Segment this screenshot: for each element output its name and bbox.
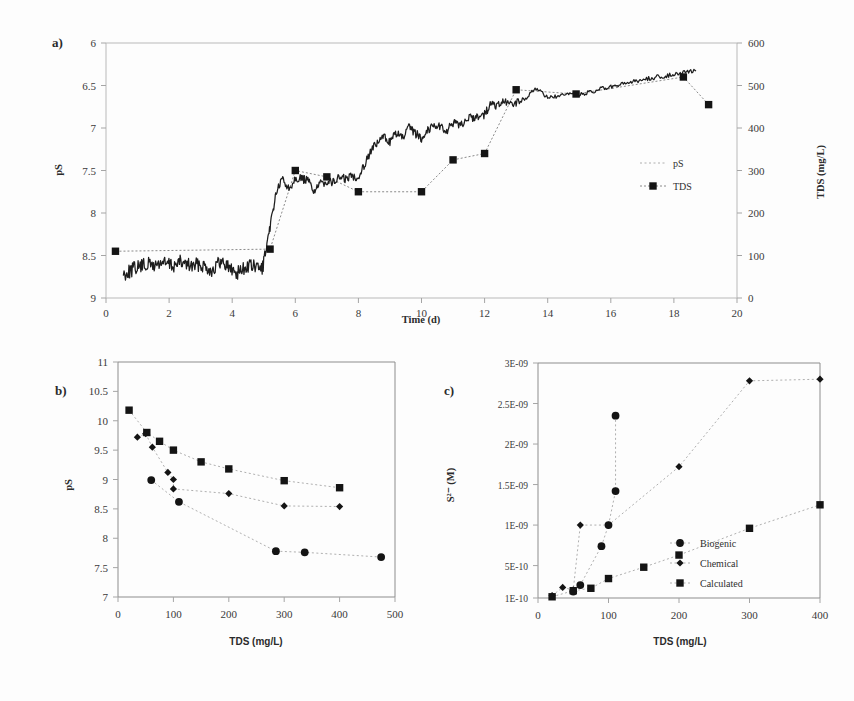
panel-a-left-ticklabel: 8 (91, 207, 97, 219)
panel-a-legend-tds-label: TDS (673, 181, 692, 192)
panel-a-x-ticklabel: 4 (229, 307, 235, 319)
panel-a-tds-marker (572, 90, 579, 97)
panel-a-x-ticklabel: 20 (732, 307, 744, 319)
panel-b-point-circle (377, 553, 385, 561)
panel-a-tds-marker (705, 101, 712, 108)
panel-c-x-ticklabel: 200 (671, 609, 688, 621)
panel-a-tds-marker (355, 188, 362, 195)
panel-a-right-ticklabel: 0 (748, 292, 754, 304)
panel-a-tds-marker (481, 150, 488, 157)
panel-c-point-square (587, 585, 594, 592)
panel-a-legend-tds-marker (649, 182, 656, 189)
panel-a-tds-line (115, 77, 708, 251)
panel-a-left-ticklabel: 6 (91, 37, 97, 49)
panel-a-right-ticklabel: 100 (748, 250, 765, 262)
panel-c-legend-marker-square (676, 579, 683, 586)
panel-a-tds-marker (449, 156, 456, 163)
panel-a-left-ticklabel: 9 (91, 292, 97, 304)
panel-a-tds-markers (112, 73, 713, 255)
panel-c-legend-marker-circle (676, 539, 684, 547)
panel-b-point-diamond (281, 502, 288, 509)
panel-b-point-square (197, 458, 204, 465)
panel-a-ps-trace (123, 69, 696, 280)
panel-c-point-circle (598, 542, 606, 550)
panel-c-x-ticklabel: 300 (741, 609, 758, 621)
panel-b-y-ticklabel: 10 (97, 415, 109, 427)
panel-a-tds-connector (115, 77, 708, 251)
panel-a-right-ticklabel: 400 (748, 122, 765, 134)
panel-b-point-diamond (170, 485, 177, 492)
panel-b-y-ticklabel: 10.5 (89, 385, 109, 397)
panel-c-chart: c) 1E-105E-101E-091.5E-092E-092.5E-093E-… (430, 345, 854, 701)
panel-a-x-ticklabel: 8 (356, 307, 362, 319)
panel-a-tds-marker (292, 167, 299, 174)
panel-b-x-ticks: 0100200300400500 (115, 597, 404, 620)
panel-b-point-diamond (164, 469, 171, 476)
panel-b-x-ticklabel: 500 (387, 608, 404, 620)
figure-page: a) 66.577.588.59 0100200300400500600 024… (0, 0, 854, 701)
panel-b-y-ticks: 77.588.599.51010.511 (89, 356, 118, 603)
panel-a-legend: pSTDS (640, 158, 692, 192)
panel-b-ylabel: pS (63, 479, 74, 491)
panel-a-left-ticks: 66.577.588.59 (82, 37, 106, 304)
panel-c-xlabel: TDS (mg/L) (653, 636, 706, 647)
panel-a-right-ticklabel: 500 (748, 80, 765, 92)
panel-b-point-square (125, 406, 132, 413)
panel-c-series-markers (548, 376, 823, 601)
panel-c-point-diamond (559, 584, 566, 591)
panel-a-tds-marker (323, 173, 330, 180)
panel-b-series-markers (125, 406, 385, 560)
panel-b-chart: b) 77.588.599.51010.511 0100200300400500… (0, 345, 440, 701)
panel-c-legend-label: Biogenic (700, 538, 737, 549)
panel-c-point-diamond (577, 521, 584, 528)
panel-c-ylabel: S²⁻ (M) (445, 467, 457, 502)
panel-b-x-ticklabel: 300 (276, 608, 293, 620)
panel-b-x-ticklabel: 200 (221, 608, 238, 620)
panel-a-y2label: TDS (mg/L) (815, 145, 827, 199)
panel-a-left-ticklabel: 7 (91, 122, 97, 134)
panel-b-letter: b) (55, 383, 67, 398)
panel-c-point-square (675, 551, 682, 558)
panel-a-x-ticklabel: 0 (103, 307, 109, 319)
panel-c-legend-marker-diamond (676, 559, 683, 566)
panel-a-right-ticklabel: 600 (748, 37, 765, 49)
panel-b-point-diamond (170, 476, 177, 483)
panel-b-point-square (156, 438, 163, 445)
panel-c-x-ticklabel: 100 (600, 609, 617, 621)
panel-a-ps-trace-line (123, 69, 696, 280)
panel-b-x-ticklabel: 0 (115, 608, 121, 620)
panel-b-point-diamond (134, 434, 141, 441)
panel-c-y-ticklabel: 1.5E-09 (498, 481, 529, 491)
panel-a-tds-marker (418, 188, 425, 195)
panel-c-x-ticks: 0100200300400 (535, 598, 829, 621)
panel-b-point-diamond (225, 490, 232, 497)
panel-c-point-square (816, 501, 823, 508)
panel-c-point-square (548, 593, 555, 600)
panel-c-point-diamond (816, 376, 823, 383)
panel-b-series-lines (129, 410, 381, 557)
panel-a-right-ticklabel: 300 (748, 165, 765, 177)
panel-c-y-ticklabel: 5E-10 (505, 562, 528, 572)
panel-c-series-connector (552, 379, 820, 595)
panel-a: a) 66.577.588.59 0100200300400500600 024… (0, 0, 854, 345)
panel-a-left-ticklabel: 6.5 (82, 80, 96, 92)
panel-c-series-connector (552, 505, 820, 597)
panel-c-point-circle (612, 487, 620, 495)
panel-a-right-ticks: 0100200300400500600 (737, 37, 765, 304)
panel-c-y-ticks: 1E-105E-101E-091.5E-092E-092.5E-093E-09 (498, 359, 538, 604)
panel-c-point-circle (576, 581, 584, 589)
panel-c-y-ticklabel: 1E-09 (505, 521, 528, 531)
panel-c-x-ticklabel: 400 (812, 609, 829, 621)
panel-a-tds-marker (512, 86, 519, 93)
panel-a-x-ticklabel: 2 (166, 307, 172, 319)
panel-b: b) 77.588.599.51010.511 0100200300400500… (0, 345, 440, 701)
panel-a-right-ticklabel: 200 (748, 207, 765, 219)
panel-b-series-connector (151, 480, 381, 557)
panel-b-point-circle (175, 498, 183, 506)
panel-c-point-square (640, 564, 647, 571)
panel-a-x-ticklabel: 12 (479, 307, 490, 319)
panel-a-left-ticklabel: 7.5 (82, 165, 96, 177)
panel-b-point-diamond (336, 503, 343, 510)
panel-c-point-square (570, 587, 577, 594)
panel-b-point-square (170, 446, 177, 453)
